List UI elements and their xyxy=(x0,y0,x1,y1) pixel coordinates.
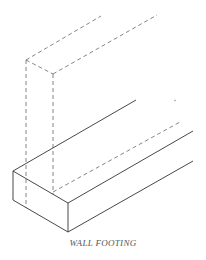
diagram-caption: WALL FOOTING xyxy=(0,238,206,248)
wall-outline xyxy=(26,15,180,208)
footing-outline xyxy=(13,100,193,232)
hidden-line-fragment xyxy=(174,100,176,101)
wall-footing-diagram xyxy=(0,0,206,260)
